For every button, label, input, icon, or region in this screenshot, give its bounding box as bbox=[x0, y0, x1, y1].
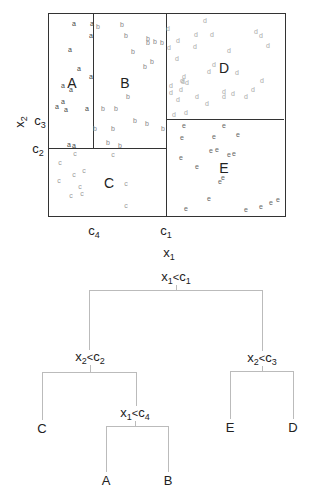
data-point-e: e bbox=[182, 122, 186, 129]
data-point-c: c bbox=[57, 177, 61, 184]
label-subscript: 1 bbox=[170, 252, 175, 262]
decision-tree-figure: aaaaaaaaaaaaaabbbbbbbbbbbbbbbbbbbbcccccc… bbox=[0, 0, 311, 485]
data-point-e: e bbox=[179, 154, 183, 161]
tree-edge bbox=[106, 426, 107, 472]
data-point-e: e bbox=[222, 122, 226, 129]
data-point-d: d bbox=[195, 93, 199, 100]
data-point-e: e bbox=[195, 163, 199, 170]
data-point-d: d bbox=[259, 32, 263, 39]
data-point-b: b bbox=[146, 39, 150, 46]
tree-edge bbox=[106, 426, 169, 427]
data-point-e: e bbox=[207, 195, 211, 202]
threshold-subscript: 1 bbox=[186, 276, 191, 286]
data-point-e: e bbox=[244, 206, 248, 213]
data-point-e: e bbox=[227, 151, 231, 158]
data-point-c: c bbox=[58, 159, 62, 166]
data-point-e: e bbox=[269, 199, 273, 206]
data-point-d: d bbox=[235, 69, 239, 76]
tree-node-left-right: x1<c4 bbox=[120, 405, 149, 422]
data-point-d: d bbox=[175, 55, 179, 62]
data-point-b: b bbox=[143, 63, 147, 70]
data-point-d: d bbox=[176, 37, 180, 44]
data-point-b: b bbox=[114, 105, 118, 112]
tree-edge bbox=[42, 372, 137, 373]
tick-label-c2: c2 bbox=[32, 141, 44, 158]
tree-edge bbox=[293, 371, 294, 419]
data-point-e: e bbox=[232, 150, 236, 157]
data-point-a: a bbox=[77, 65, 81, 72]
data-point-d: d bbox=[169, 82, 173, 89]
data-point-b: b bbox=[118, 142, 122, 149]
data-point-d: d bbox=[194, 31, 198, 38]
data-point-d: d bbox=[231, 90, 235, 97]
data-point-a: a bbox=[89, 73, 93, 80]
tick-label-c1: c1 bbox=[160, 223, 172, 240]
split-line-c2-horizontal bbox=[48, 148, 166, 149]
data-point-d: d bbox=[176, 96, 180, 103]
data-point-b: b bbox=[120, 21, 124, 28]
data-point-d: d bbox=[180, 77, 184, 84]
region-label-A: A bbox=[67, 75, 76, 91]
x-axis-title: x1 bbox=[163, 245, 175, 262]
region-label-E: E bbox=[219, 160, 228, 176]
data-point-d: d bbox=[185, 79, 189, 86]
data-point-e: e bbox=[180, 134, 184, 141]
data-point-d: d bbox=[260, 77, 264, 84]
data-point-a: a bbox=[68, 46, 72, 53]
tick-label-c4: c4 bbox=[88, 223, 100, 240]
data-point-c: c bbox=[124, 180, 128, 187]
data-point-a: a bbox=[61, 98, 65, 105]
threshold-subscript: 3 bbox=[272, 357, 277, 367]
tree-leaf-D: D bbox=[288, 420, 297, 435]
data-point-d: d bbox=[184, 109, 188, 116]
tree-leaf-C: C bbox=[37, 421, 46, 436]
data-point-d: d bbox=[166, 25, 170, 32]
data-point-c: c bbox=[73, 150, 77, 157]
region-label-D: D bbox=[219, 60, 229, 76]
data-point-d: d bbox=[266, 42, 270, 49]
region-label-B: B bbox=[120, 75, 129, 91]
data-point-d: d bbox=[251, 86, 255, 93]
data-point-b: b bbox=[101, 105, 105, 112]
tree-edge bbox=[90, 365, 91, 372]
data-point-b: b bbox=[93, 125, 97, 132]
data-point-c: c bbox=[111, 151, 115, 158]
data-point-a: a bbox=[55, 103, 59, 110]
data-point-d: d bbox=[205, 100, 209, 107]
data-point-a: a bbox=[67, 141, 71, 148]
data-point-c: c bbox=[82, 167, 86, 174]
data-point-c: c bbox=[69, 192, 73, 199]
data-point-d: d bbox=[212, 61, 216, 68]
label-subscript: 3 bbox=[41, 120, 46, 130]
data-point-d: d bbox=[167, 44, 171, 51]
data-point-e: e bbox=[184, 205, 188, 212]
tree-edge bbox=[230, 371, 294, 372]
data-point-c: c bbox=[80, 190, 84, 197]
data-point-e: e bbox=[209, 147, 213, 154]
data-point-e: e bbox=[212, 133, 216, 140]
data-point-e: e bbox=[215, 146, 219, 153]
tree-edge bbox=[136, 372, 137, 406]
tree-edge bbox=[230, 371, 231, 419]
data-point-d: d bbox=[172, 111, 176, 118]
tree-edge bbox=[168, 426, 169, 472]
data-point-b: b bbox=[145, 120, 149, 127]
y-axis-title: x2 bbox=[12, 116, 29, 128]
tree-node-right: x2<c3 bbox=[247, 350, 276, 367]
data-point-e: e bbox=[259, 203, 263, 210]
tree-leaf-E: E bbox=[226, 420, 235, 435]
threshold-subscript: 4 bbox=[145, 412, 150, 422]
tree-edge bbox=[89, 290, 90, 350]
data-point-c: c bbox=[124, 202, 128, 209]
tree-leaf-A: A bbox=[102, 473, 111, 485]
data-point-c: c bbox=[78, 183, 82, 190]
tree-edge bbox=[262, 290, 263, 351]
data-point-a: a bbox=[89, 32, 93, 39]
data-point-b: b bbox=[96, 23, 100, 30]
data-point-a: a bbox=[90, 20, 94, 27]
data-point-d: d bbox=[193, 43, 197, 50]
tree-node-root: x1<c1 bbox=[161, 269, 190, 286]
data-point-b: b bbox=[111, 125, 115, 132]
data-point-b: b bbox=[124, 32, 128, 39]
data-point-b: b bbox=[153, 38, 157, 45]
